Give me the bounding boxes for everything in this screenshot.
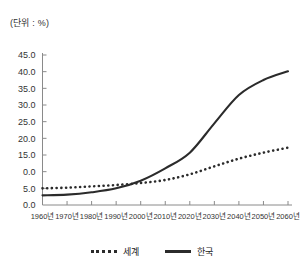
x-axis-tick-marks bbox=[43, 201, 289, 205]
y-axis-tick-labels: 45.040.035.030.025.020.015.00.05.00.0 bbox=[18, 50, 36, 210]
y-axis-tick-label: 0.0 bbox=[23, 200, 36, 210]
x-axis-tick-label: 2060년 bbox=[276, 211, 300, 221]
x-axis-tick-label: 2030년 bbox=[203, 211, 227, 221]
plot-area: 45.040.035.030.025.020.015.00.05.00.0 19… bbox=[0, 0, 304, 262]
dotted-line-icon bbox=[91, 250, 117, 253]
y-axis-tick-label: 20.0 bbox=[18, 134, 36, 144]
x-axis-tick-label: 2050년 bbox=[252, 211, 276, 221]
chart-svg: 45.040.035.030.025.020.015.00.05.00.0 19… bbox=[0, 0, 304, 262]
y-axis-tick-label: 0.0 bbox=[23, 167, 36, 177]
x-axis-tick-label: 2020년 bbox=[178, 211, 202, 221]
y-axis-tick-label: 30.0 bbox=[18, 100, 36, 110]
legend-item-world: 세계 bbox=[91, 245, 139, 258]
y-axis-tick-label: 45.0 bbox=[18, 50, 36, 60]
x-axis-tick-label: 1960년 bbox=[31, 211, 55, 221]
x-axis-tick-label: 1980년 bbox=[80, 211, 104, 221]
y-axis-tick-label: 25.0 bbox=[18, 117, 36, 127]
x-axis-tick-label: 2010년 bbox=[153, 211, 177, 221]
legend-item-korea: 한국 bbox=[165, 245, 213, 258]
solid-line-icon bbox=[165, 250, 191, 253]
y-axis-tick-label: 40.0 bbox=[18, 67, 36, 77]
y-axis-tick-label: 15.0 bbox=[18, 150, 36, 160]
y-axis-tick-marks bbox=[43, 55, 47, 188]
y-axis-tick-label: 5.0 bbox=[23, 184, 36, 194]
series-line-korea bbox=[43, 71, 289, 195]
chart-legend: 세계 한국 bbox=[0, 245, 304, 258]
aging-population-line-chart: (단위 : %) 45.040.035.030.025.020.015.00.0… bbox=[0, 0, 304, 262]
legend-label-korea: 한국 bbox=[197, 245, 213, 258]
x-axis-tick-label: 2040년 bbox=[227, 211, 251, 221]
x-axis-tick-label: 1990년 bbox=[104, 211, 128, 221]
x-axis-tick-label: 1970년 bbox=[55, 211, 79, 221]
legend-label-world: 세계 bbox=[123, 245, 139, 258]
x-axis-tick-label: 2000년 bbox=[129, 211, 153, 221]
x-axis-tick-labels: 1960년1970년1980년1990년2000년2010년2020년2030년… bbox=[31, 211, 300, 221]
y-axis-tick-label: 35.0 bbox=[18, 84, 36, 94]
